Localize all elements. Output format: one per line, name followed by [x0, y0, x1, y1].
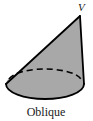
figure-caption: Oblique	[27, 105, 66, 119]
oblique-cone-figure: V Oblique	[0, 0, 93, 121]
apex-label-v: V	[78, 1, 86, 13]
cone-diagram: V Oblique	[0, 0, 93, 121]
